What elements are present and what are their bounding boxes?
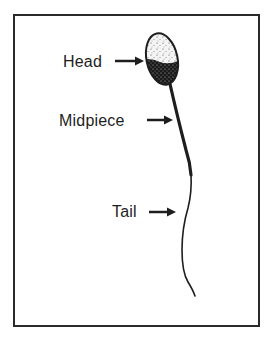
label-head: Head (63, 54, 102, 70)
sperm-tail (182, 175, 195, 296)
sperm-cell-drawing (0, 0, 269, 337)
arrow-head (115, 57, 144, 66)
sperm-head (140, 30, 185, 92)
label-midpiece: Midpiece (59, 113, 125, 129)
label-tail: Tail (112, 204, 137, 220)
sperm-midpiece (170, 84, 191, 175)
arrow-midpiece (147, 116, 173, 125)
arrow-tail (149, 208, 176, 217)
